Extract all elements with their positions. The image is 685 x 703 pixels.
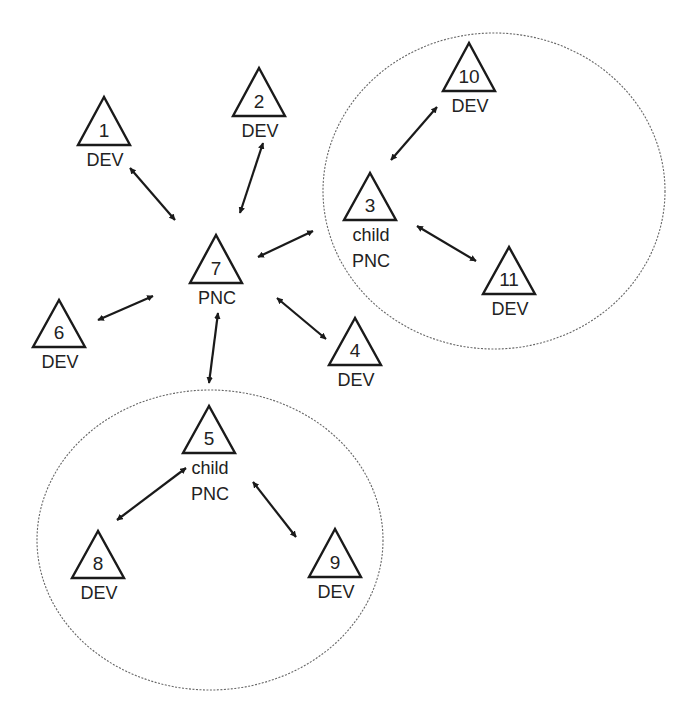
node-7: 7PNC [190,235,242,308]
node-number: 10 [458,66,479,87]
node-number: 6 [54,322,65,343]
node-label: DEV [317,582,354,602]
node-number: 4 [350,340,361,361]
node-label: child [352,225,389,245]
bidirectional-arrow-3-11 [417,226,476,261]
node-4: 4DEV [329,318,381,390]
node-label: DEV [86,150,123,170]
node-label: PNC [198,288,236,308]
node-label: PNC [352,251,390,271]
node-label: DEV [80,583,117,603]
node-label: DEV [241,121,278,141]
node-layer: 1DEV2DEV3childPNC4DEV5childPNC6DEV7PNC8D… [33,43,535,603]
node-label: DEV [337,370,374,390]
node-label: DEV [451,96,488,116]
bidirectional-arrow-2-7 [240,143,263,213]
node-5: 5childPNC [183,406,235,504]
node-3: 3childPNC [344,173,396,271]
bidirectional-arrow-5-8 [117,468,186,520]
node-1: 1DEV [78,97,130,170]
node-number: 2 [254,91,265,112]
diagram-canvas: 1DEV2DEV3childPNC4DEV5childPNC6DEV7PNC8D… [0,0,685,703]
node-number: 3 [365,195,376,216]
bidirectional-arrow-7-5 [209,313,218,383]
node-number: 11 [499,269,519,290]
bidirectional-arrow-7-3 [258,231,313,257]
node-11: 11DEV [483,247,535,319]
node-10: 10DEV [443,43,495,116]
network-diagram: 1DEV2DEV3childPNC4DEV5childPNC6DEV7PNC8D… [0,0,685,703]
node-number: 1 [99,120,110,141]
bidirectional-arrow-7-4 [277,298,326,339]
node-8: 8DEV [72,531,124,603]
bidirectional-arrow-5-9 [253,482,296,537]
node-9: 9DEV [309,529,361,602]
node-number: 8 [93,553,104,574]
node-number: 7 [211,258,222,279]
node-2: 2DEV [233,68,285,141]
node-number: 5 [204,428,215,449]
node-label: child [191,458,228,478]
node-number: 9 [330,552,341,573]
bidirectional-arrow-6-7 [98,296,153,320]
node-label: DEV [41,352,78,372]
bidirectional-arrow-1-7 [130,168,175,220]
node-6: 6DEV [33,300,85,372]
node-label: PNC [191,484,229,504]
bidirectional-arrow-3-10 [391,107,437,160]
node-label: DEV [491,299,528,319]
edge-layer [98,107,476,537]
